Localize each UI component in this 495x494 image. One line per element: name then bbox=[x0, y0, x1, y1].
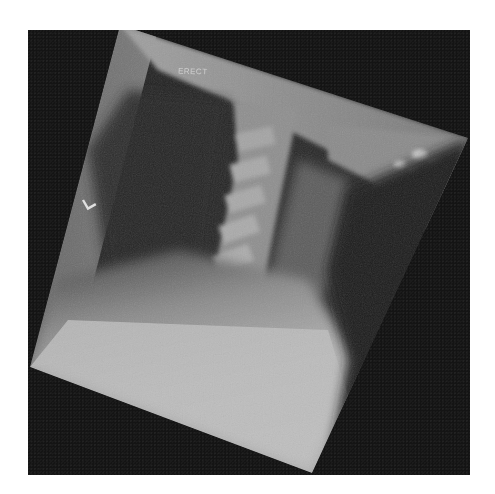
xray-film bbox=[28, 30, 470, 475]
image-canvas: ERECT bbox=[0, 0, 495, 494]
position-label: ERECT bbox=[178, 66, 208, 76]
xray-image bbox=[28, 30, 470, 475]
xray-frame: ERECT bbox=[28, 30, 470, 475]
